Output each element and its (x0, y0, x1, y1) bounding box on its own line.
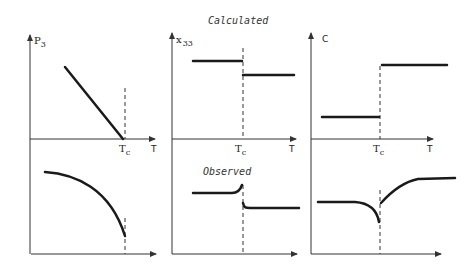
p3-t-label: T (150, 144, 157, 154)
c-tc-label: Tc (373, 143, 385, 157)
panel-p3: P3 Tc T (30, 35, 157, 254)
panel-c: C Tc T (311, 33, 455, 254)
x33-observed-lower (243, 203, 299, 208)
phase-transition-diagram: Calculated Observed P3 Tc T x33 Tc T C (0, 0, 474, 274)
x33-t-label: T (288, 144, 295, 154)
c-t-label: T (426, 144, 433, 154)
c-y-label: C (322, 34, 328, 44)
observed-title: Observed (203, 166, 252, 177)
p3-observed-curve (45, 172, 125, 236)
c-observed-left (318, 202, 379, 222)
x33-observed-upper (193, 185, 242, 193)
calculated-title: Calculated (208, 15, 269, 26)
x33-tc-label: Tc (235, 143, 247, 157)
p3-tc-label: Tc (119, 143, 131, 157)
x33-y-label: x33 (176, 34, 193, 48)
panel-x33: x33 Tc T (172, 33, 299, 254)
c-observed-right (381, 178, 455, 203)
p3-calculated-line (65, 67, 123, 139)
p3-y-label: P3 (34, 35, 46, 49)
